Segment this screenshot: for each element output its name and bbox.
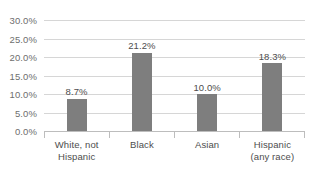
x-tick-4 xyxy=(304,131,305,138)
bar-value-hispanic-any-race: 18.3% xyxy=(259,51,286,62)
x-label-line: Asian xyxy=(175,139,240,151)
y-tick-label-5: 5.0% xyxy=(15,107,37,118)
bar-value-white-not-hispanic: 8.7% xyxy=(66,86,88,97)
y-tick-label-0: 0.0% xyxy=(15,126,37,137)
x-tick-3 xyxy=(239,131,240,138)
bar-value-asian: 10.0% xyxy=(193,82,220,93)
y-tick-label-10: 10.0% xyxy=(10,89,37,100)
x-axis-ticks xyxy=(44,131,305,138)
x-label-line: (any race) xyxy=(240,151,305,163)
x-label-line: Hispanic xyxy=(240,139,305,151)
x-tick-2 xyxy=(174,131,175,138)
x-label-black: Black xyxy=(109,139,174,151)
y-axis-labels: 30.0% 25.0% 20.0% 15.0% 10.0% 5.0% 0.0% xyxy=(0,0,44,174)
bar-value-black: 21.2% xyxy=(128,40,155,51)
y-tick-label-25: 25.0% xyxy=(10,33,37,44)
x-label-hispanic-any-race: Hispanic (any race) xyxy=(240,139,305,163)
bar-asian xyxy=(197,94,217,131)
bar-hispanic-any-race xyxy=(262,63,282,131)
bar-series: 8.7% 21.2% 10.0% 18.3% xyxy=(44,20,305,131)
bar-white-not-hispanic xyxy=(67,99,87,131)
bar-slot-black: 21.2% xyxy=(109,20,174,131)
x-axis-labels: White, not Hispanic Black Asian Hispanic… xyxy=(44,139,305,174)
bar-black xyxy=(132,53,152,131)
y-tick-label-20: 20.0% xyxy=(10,52,37,63)
bar-slot-hispanic-any-race: 18.3% xyxy=(240,20,305,131)
x-tick-1 xyxy=(109,131,110,138)
bar-slot-white-not-hispanic: 8.7% xyxy=(44,20,109,131)
x-label-line: Black xyxy=(109,139,174,151)
x-label-line: White, not xyxy=(44,139,109,151)
bar-chart: 30.0% 25.0% 20.0% 15.0% 10.0% 5.0% 0.0% … xyxy=(0,0,327,174)
x-tick-0 xyxy=(44,131,45,138)
y-tick-label-30: 30.0% xyxy=(10,15,37,26)
x-label-white-not-hispanic: White, not Hispanic xyxy=(44,139,109,163)
x-label-line: Hispanic xyxy=(44,151,109,163)
y-tick-label-15: 15.0% xyxy=(10,70,37,81)
x-label-asian: Asian xyxy=(175,139,240,151)
bar-slot-asian: 10.0% xyxy=(175,20,240,131)
